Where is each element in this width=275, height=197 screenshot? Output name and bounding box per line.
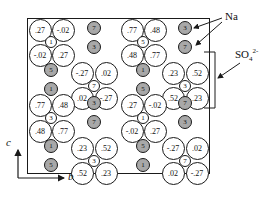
sodium-atom: 5 <box>136 139 150 153</box>
oxygen-atom: .27 <box>144 120 167 143</box>
sodium-atom: 1 <box>136 63 150 77</box>
sodium-atom: 7 <box>87 21 101 35</box>
sodium-atom: 3 <box>178 21 192 35</box>
sodium-atom: 7 <box>178 40 192 54</box>
sodium-atom: 1 <box>136 158 150 172</box>
axis-b-label: b <box>68 170 74 182</box>
sulfur-atom: 7 <box>179 155 191 167</box>
axis-c-label: c <box>6 136 11 148</box>
sodium-atom: 5 <box>136 82 150 96</box>
sodium-atom: 5 <box>44 63 58 77</box>
sodium-atom: 3 <box>87 96 101 110</box>
sulfate-label-subscript: 4 <box>249 55 253 63</box>
sodium-atom: 5 <box>44 158 58 172</box>
na-label: Na <box>225 10 238 22</box>
sulfate-label-base: SO <box>235 48 249 60</box>
sodium-atom: 3 <box>87 40 101 54</box>
sodium-atom: 1 <box>44 82 58 96</box>
crystal-structure-diagram: .27-.02-.02.27-.27.02.02-.27.77.48.48.77… <box>0 0 275 197</box>
oxygen-atom: .77 <box>144 44 167 67</box>
sulfur-atom: 3 <box>179 80 191 92</box>
sulfur-atom: 7 <box>88 80 100 92</box>
oxygen-atom: .27 <box>52 44 75 67</box>
sulfate-label: SO42- <box>235 47 258 63</box>
sodium-atom: 3 <box>178 115 192 129</box>
sulfur-atom: 3 <box>45 112 57 124</box>
sodium-atom: 7 <box>178 96 192 110</box>
oxygen-atom: .77 <box>52 120 75 143</box>
sodium-atom: 1 <box>44 139 58 153</box>
sulfur-atom: 3 <box>88 155 100 167</box>
sulfur-atom: 1 <box>45 36 57 48</box>
sulfate-label-superscript: 2- <box>253 47 259 55</box>
sulfur-atom: 1 <box>137 112 149 124</box>
sodium-atom: 7 <box>87 115 101 129</box>
sulfur-atom: 5 <box>137 36 149 48</box>
